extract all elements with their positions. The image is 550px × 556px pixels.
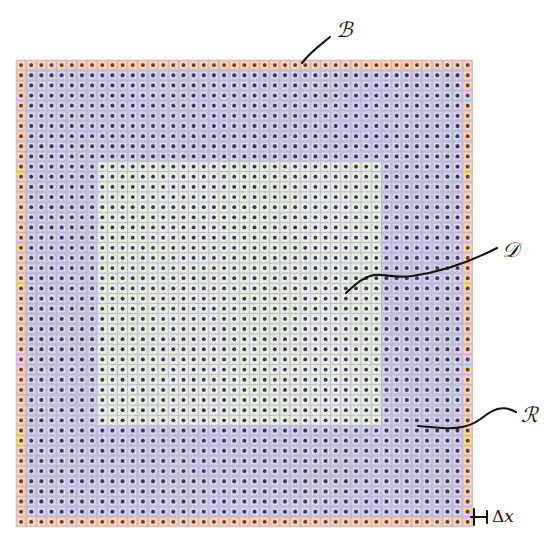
grid-node-dot [202, 246, 206, 250]
grid-node-dot [283, 286, 287, 290]
grid-node-dot [314, 388, 318, 392]
grid-node-dot [90, 459, 94, 463]
grid-node-dot [466, 134, 470, 138]
grid-node-dot [90, 439, 94, 443]
grid-node-dot [131, 449, 135, 453]
grid-node-dot [212, 479, 216, 483]
grid-node-dot [283, 175, 287, 179]
grid-node-dot [283, 347, 287, 351]
grid-node-dot [222, 388, 226, 392]
grid-node-dot [364, 439, 368, 443]
grid-node-dot [415, 378, 419, 382]
grid-node-dot [273, 134, 277, 138]
grid-node-dot [50, 418, 54, 422]
grid-node-dot [456, 307, 460, 311]
grid-node-dot [212, 286, 216, 290]
grid-node-dot [314, 104, 318, 108]
grid-node-dot [354, 429, 358, 433]
grid-node-dot [39, 408, 43, 412]
grid-node-dot [100, 94, 104, 98]
grid-node-dot [425, 469, 429, 473]
grid-node-dot [466, 94, 470, 98]
grid-node-dot [435, 266, 439, 270]
grid-node-dot [70, 510, 74, 514]
grid-node-dot [283, 83, 287, 87]
grid-node-dot [354, 297, 358, 301]
grid-node-dot [415, 276, 419, 280]
grid-node-dot [90, 286, 94, 290]
grid-node-dot [182, 429, 186, 433]
grid-node-dot [354, 104, 358, 108]
grid-node-dot [374, 297, 378, 301]
grid-node-dot [344, 418, 348, 422]
grid-node-dot [395, 286, 399, 290]
grid-node-dot [435, 83, 439, 87]
grid-node-dot [100, 388, 104, 392]
grid-node-dot [364, 266, 368, 270]
grid-node-dot [151, 368, 155, 372]
grid-node-dot [324, 337, 328, 341]
grid-node-dot [232, 398, 236, 402]
grid-node-dot [395, 489, 399, 493]
grid-node-dot [131, 266, 135, 270]
grid-node-dot [324, 266, 328, 270]
grid-node-dot [182, 124, 186, 128]
grid-node-dot [242, 297, 246, 301]
grid-node-dot [242, 63, 246, 67]
grid-node-dot [456, 378, 460, 382]
grid-node-dot [385, 286, 389, 290]
grid-node-dot [263, 124, 267, 128]
grid-node-dot [344, 368, 348, 372]
grid-node-dot [151, 144, 155, 148]
grid-node-dot [202, 114, 206, 118]
grid-node-dot [60, 226, 64, 230]
grid-node-dot [314, 429, 318, 433]
grid-node-dot [141, 276, 145, 280]
grid-node-dot [324, 317, 328, 321]
grid-node-dot [303, 317, 307, 321]
grid-node-dot [100, 327, 104, 331]
grid-node-dot [445, 500, 449, 504]
grid-node-dot [395, 500, 399, 504]
grid-node-dot [141, 63, 145, 67]
grid-node-dot [222, 104, 226, 108]
grid-node-dot [141, 327, 145, 331]
grid-node-dot [39, 226, 43, 230]
grid-node-dot [70, 215, 74, 219]
grid-node-dot [232, 489, 236, 493]
grid-node-dot [334, 347, 338, 351]
grid-node-dot [273, 73, 277, 77]
grid-node-dot [374, 449, 378, 453]
grid-node-dot [29, 347, 33, 351]
grid-node-dot [314, 489, 318, 493]
grid-node-dot [100, 398, 104, 402]
grid-node-dot [364, 520, 368, 524]
grid-node-dot [344, 520, 348, 524]
grid-node-dot [253, 73, 257, 77]
grid-node-dot [80, 418, 84, 422]
grid-node-dot [385, 418, 389, 422]
grid-node-dot [374, 408, 378, 412]
grid-node-dot [202, 236, 206, 240]
grid-node-dot [466, 439, 470, 443]
grid-node-dot [415, 500, 419, 504]
grid-node-dot [121, 226, 125, 230]
grid-node-dot [222, 358, 226, 362]
grid-node-dot [242, 510, 246, 514]
grid-node-dot [171, 459, 175, 463]
grid-node-dot [314, 185, 318, 189]
grid-node-dot [253, 398, 257, 402]
grid-node-dot [415, 144, 419, 148]
grid-node-dot [90, 297, 94, 301]
grid-node-dot [192, 469, 196, 473]
grid-node-dot [466, 155, 470, 159]
grid-node-dot [50, 358, 54, 362]
grid-node-dot [202, 418, 206, 422]
grid-node-dot [445, 378, 449, 382]
grid-node-dot [253, 83, 257, 87]
grid-node-dot [303, 83, 307, 87]
grid-node-dot [60, 246, 64, 250]
grid-node-dot [344, 307, 348, 311]
grid-node-dot [161, 307, 165, 311]
grid-node-dot [303, 144, 307, 148]
